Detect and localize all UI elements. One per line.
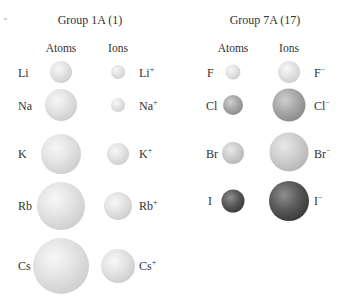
atom-sphere-rb <box>37 182 85 230</box>
ion-label-br: Br− <box>314 147 331 162</box>
ion-sphere-cl <box>273 89 306 122</box>
element-label-na: Na <box>18 99 32 114</box>
element-label-li: Li <box>18 66 29 81</box>
ion-sphere-i <box>269 181 309 221</box>
atom-sphere-br <box>222 142 244 164</box>
element-label-i: I <box>208 194 212 209</box>
group-7a-atoms-header: Atoms <box>218 42 249 54</box>
ion-label-li: Li+ <box>139 66 154 81</box>
group-1a-ions-header: Ions <box>108 42 128 54</box>
ion-label-rb: Rb+ <box>139 199 158 214</box>
element-label-rb: Rb <box>18 199 32 214</box>
ion-label-cs: Cs+ <box>139 259 156 274</box>
group-7a-title: Group 7A (17) <box>230 13 301 28</box>
stray-mark <box>4 18 7 20</box>
element-label-cl: Cl <box>206 99 217 114</box>
ion-label-cl: Cl− <box>314 99 330 114</box>
ion-sphere-f <box>278 61 300 83</box>
element-label-f: F <box>207 66 214 81</box>
ion-label-i: I− <box>314 194 323 209</box>
element-label-k: K <box>18 147 27 162</box>
ion-sphere-k <box>107 143 129 165</box>
element-label-cs: Cs <box>18 259 31 274</box>
atom-sphere-k <box>41 134 81 174</box>
atom-sphere-na <box>45 89 77 121</box>
atom-sphere-li <box>50 61 72 83</box>
ion-label-f: F− <box>314 66 325 81</box>
element-label-br: Br <box>206 147 218 162</box>
ion-sphere-br <box>270 133 309 172</box>
ion-sphere-cs <box>101 249 135 283</box>
ion-sphere-rb <box>104 192 132 220</box>
ion-label-na: Na+ <box>139 99 158 114</box>
atom-sphere-cl <box>223 95 243 115</box>
ion-label-k: K+ <box>139 147 152 162</box>
atom-sphere-f <box>226 65 241 80</box>
group-7a-ions-header: Ions <box>279 42 299 54</box>
atom-sphere-i <box>222 190 245 213</box>
group-1a-atoms-header: Atoms <box>46 42 77 54</box>
ion-sphere-na <box>111 98 125 112</box>
group-1a-title: Group 1A (1) <box>58 13 123 28</box>
ion-sphere-li <box>111 65 125 79</box>
atom-sphere-cs <box>33 238 89 294</box>
